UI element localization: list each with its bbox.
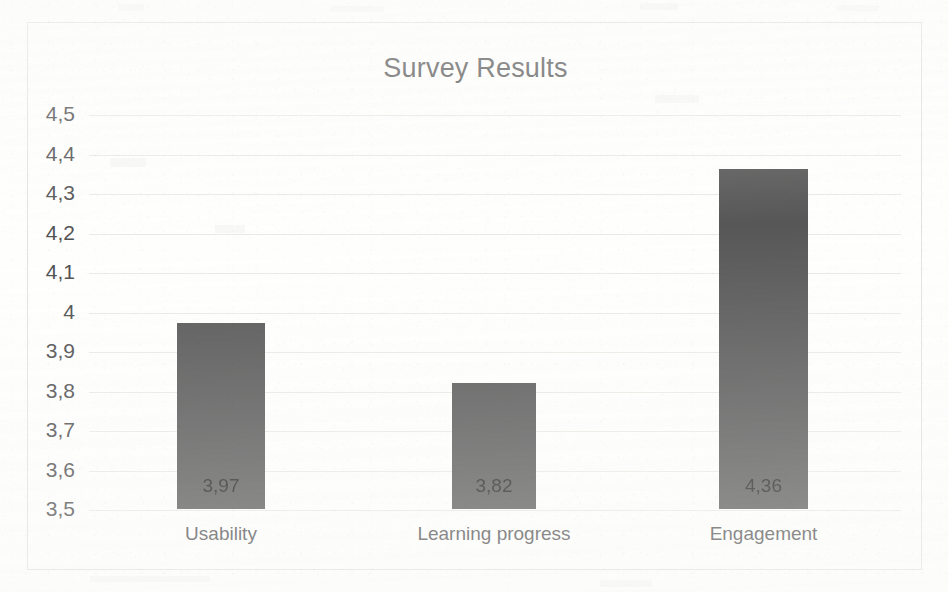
bar[interactable]: 3,97 [177, 323, 265, 509]
bar[interactable]: 4,36 [719, 169, 808, 509]
chart-screenshot: Survey Results 4,54,44,34,24,143,93,83,7… [0, 0, 948, 592]
y-axis-tick-label: 4,5 [21, 102, 75, 126]
bar-value-label: 4,36 [719, 475, 808, 497]
bar[interactable]: 3,82 [452, 383, 536, 509]
x-axis-category-label: Learning progress [417, 523, 570, 545]
y-axis-tick-label: 3,5 [21, 497, 75, 521]
y-axis-tick-label: 3,6 [21, 458, 75, 482]
bar-value-label: 3,97 [177, 475, 265, 497]
scan-artifact [90, 576, 210, 582]
y-axis-tick-label: 3,9 [21, 339, 75, 363]
scan-artifact [836, 5, 878, 11]
y-axis-tick-label: 4,1 [21, 260, 75, 284]
y-axis-tick-label: 3,7 [21, 418, 75, 442]
scan-artifact [600, 580, 652, 587]
y-axis-tick-label: 3,8 [21, 379, 75, 403]
y-axis-tick-label: 4,3 [21, 181, 75, 205]
scan-artifact [640, 3, 678, 10]
gridline [89, 115, 901, 116]
scan-artifact [118, 4, 144, 11]
scan-artifact [330, 6, 384, 12]
gridline [89, 510, 901, 511]
y-axis-tick-label: 4,2 [21, 221, 75, 245]
gridline [89, 155, 901, 156]
y-axis: 4,54,44,34,24,143,93,83,73,63,5 [27, 114, 75, 509]
x-axis-category-label: Engagement [710, 523, 818, 545]
chart-title: Survey Results [28, 53, 923, 84]
y-axis-tick-label: 4,4 [21, 142, 75, 166]
y-axis-tick-label: 4 [21, 300, 75, 324]
bar-value-label: 3,82 [452, 475, 536, 497]
x-axis-category-label: Usability [185, 523, 257, 545]
